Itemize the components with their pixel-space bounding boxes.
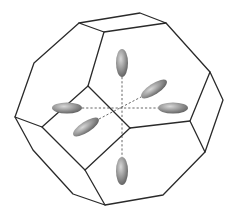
ellipsoid-bottom [116,157,128,185]
edge-lower-left [42,127,130,170]
edge-upper-left [88,32,130,128]
edge-center-right [130,121,190,128]
ellipsoid-top [116,49,128,77]
top-square-face [79,13,166,32]
truncated-octahedron-diagram [0,0,236,215]
ellipsoid-right [158,103,188,114]
ellipsoids [52,49,188,185]
ellipsoid-back-right [138,76,169,102]
ellipsoid-left [52,103,82,114]
edge-right-face [190,72,210,152]
ellipsoid-front-left [70,114,101,140]
